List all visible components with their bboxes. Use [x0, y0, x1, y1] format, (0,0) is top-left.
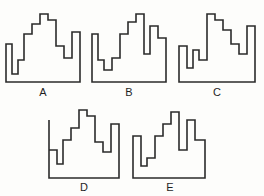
figure-cell-b[interactable]: [90, 12, 168, 84]
shape-outline-c[interactable]: [177, 12, 257, 84]
shape-outline-d[interactable]: [45, 108, 123, 180]
shape-path-a: [6, 14, 80, 82]
figure-cell-d[interactable]: [45, 108, 123, 180]
figure-cell-e[interactable]: [131, 110, 209, 180]
shape-label-e: E: [131, 181, 209, 195]
figure-container: A B C D E: [0, 0, 264, 196]
figure-cell-c[interactable]: [177, 12, 257, 84]
figure-cell-a[interactable]: [4, 12, 82, 84]
shape-path-e: [133, 112, 205, 178]
shape-path-b: [92, 14, 166, 82]
shape-outline-b[interactable]: [90, 12, 168, 84]
shape-label-d: D: [45, 181, 123, 195]
shape-path-c: [179, 14, 255, 82]
shape-label-c: C: [177, 86, 257, 100]
shape-outline-e[interactable]: [131, 110, 209, 180]
shape-path-d: [49, 110, 119, 178]
shape-label-b: B: [90, 86, 168, 100]
shape-outline-a[interactable]: [4, 12, 82, 84]
shape-label-a: A: [4, 86, 82, 100]
